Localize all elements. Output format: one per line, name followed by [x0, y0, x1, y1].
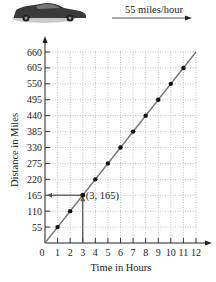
y-tick-label: 550 — [27, 78, 42, 89]
data-point — [143, 113, 147, 117]
x-tick-label: 2 — [68, 247, 73, 258]
data-point — [106, 161, 110, 165]
x-tick-label: 0 — [40, 247, 45, 258]
x-axis-arrow-icon — [205, 241, 212, 246]
data-point — [55, 225, 59, 229]
y-tick-label: 605 — [27, 62, 42, 73]
speed-arrow-head-icon — [185, 16, 192, 21]
y-tick-label: 220 — [27, 174, 42, 185]
data-point — [93, 177, 97, 181]
x-tick-label: 9 — [156, 247, 161, 258]
x-tick-label: 11 — [179, 247, 189, 258]
x-tick-label: 5 — [105, 247, 110, 258]
y-tick-label: 495 — [27, 94, 42, 105]
y-tick-label: 275 — [27, 158, 42, 169]
x-tick-label: 6 — [118, 247, 123, 258]
x-axis-label: Time in Hours — [91, 262, 152, 273]
y-axis-arrow-icon — [43, 36, 48, 43]
data-point — [118, 145, 122, 149]
data-point — [131, 129, 135, 133]
data-point — [156, 98, 160, 102]
x-tick-label: 4 — [93, 247, 98, 258]
x-tick-label: 12 — [191, 247, 201, 258]
speed-label: 55 miles/hour — [125, 4, 184, 15]
x-tick-label: 7 — [131, 247, 136, 258]
data-point — [169, 82, 173, 86]
y-tick-label: 165 — [27, 190, 42, 201]
car-icon — [12, 3, 86, 23]
x-tick-label: 1 — [55, 247, 60, 258]
y-tick-label: 385 — [27, 126, 42, 137]
x-tick-label: 10 — [166, 247, 176, 258]
annotated-point — [81, 193, 85, 197]
x-tick-label: 3 — [80, 247, 85, 258]
data-point — [68, 209, 72, 213]
data-point — [181, 66, 185, 70]
distance-time-chart: 55 miles/hour 01234567891011125511016522… — [0, 0, 216, 282]
x-tick-label: 8 — [143, 247, 148, 258]
y-tick-label: 440 — [27, 110, 42, 121]
y-tick-label: 55 — [32, 222, 42, 233]
y-tick-label: 660 — [27, 47, 42, 58]
annotation-label: (3, 165) — [86, 190, 120, 202]
y-axis-label: Distance in Miles — [9, 113, 20, 187]
left-arrow-icon — [47, 193, 52, 198]
y-tick-label: 330 — [27, 142, 42, 153]
y-tick-label: 110 — [27, 206, 42, 217]
